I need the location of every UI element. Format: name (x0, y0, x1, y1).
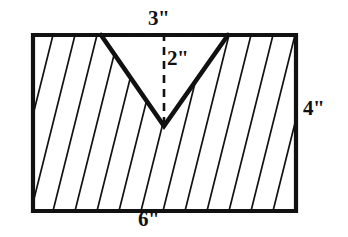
hatch-line (0, 35, 9, 211)
hatch-line (0, 35, 31, 211)
hatch-line (251, 35, 295, 211)
hatch-line (31, 35, 75, 211)
block-height-label: 4" (303, 98, 324, 119)
hatch-line (119, 35, 163, 211)
notch-width-label: 3" (148, 8, 169, 29)
technical-drawing-svg (0, 0, 348, 237)
hatch-line (75, 35, 119, 211)
block-width-label: 6" (138, 209, 159, 230)
hatch-line (207, 35, 251, 211)
figure-container: 3" 2" 4" 6" (0, 0, 348, 237)
hatch-line (295, 35, 339, 211)
hatch-line (53, 35, 97, 211)
notch-depth-label: 2" (167, 48, 188, 69)
hatch-line (229, 35, 273, 211)
